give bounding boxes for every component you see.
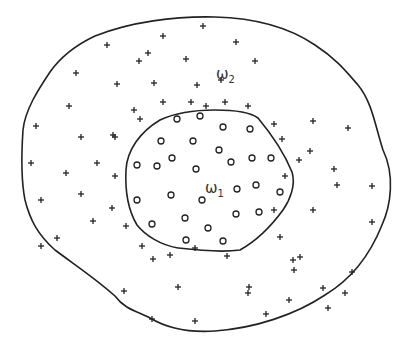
plus-marker [222,99,228,105]
plus-marker [245,103,251,109]
plus-marker [369,219,375,225]
plus-marker [342,290,348,296]
plus-marker [38,197,44,203]
circle-marker [169,155,175,161]
circle-marker [149,221,155,227]
plus-marker [54,235,60,241]
circle-marker [253,182,259,188]
plus-marker [310,118,316,124]
plus-marker [200,23,206,29]
plus-marker [38,243,44,249]
plus-marker [277,234,283,240]
circle-marker [249,155,255,161]
plus-marker [160,99,166,105]
omega2-symbol: ω [216,65,229,83]
plus-marker [297,254,303,260]
circle-marker [134,162,140,168]
circle-marker [268,155,274,161]
plus-marker [136,58,142,64]
circle-marker [154,163,160,169]
omega2-plus-markers [28,23,375,324]
plus-marker [345,125,351,131]
plus-marker [194,82,200,88]
plus-marker [325,305,331,311]
nested-regions-diagram: ω1 ω2 [0,0,412,355]
plus-marker [33,123,39,129]
circle-marker [247,126,253,132]
plus-marker [334,182,340,188]
omega1-symbol: ω [205,179,218,197]
plus-marker [151,80,157,86]
plus-marker [112,173,118,179]
outer-region-boundary [22,17,391,331]
plus-marker [271,207,277,213]
plus-marker [90,218,96,224]
circle-marker [197,113,203,119]
plus-marker [175,284,181,290]
plus-marker [331,166,337,172]
plus-marker [183,56,189,62]
circle-marker [228,159,234,165]
plus-marker [310,207,316,213]
plus-marker [203,103,209,109]
plus-marker [131,107,137,113]
plus-marker [28,160,34,166]
plus-marker [192,318,198,324]
circle-marker [190,138,196,144]
circle-marker [205,225,211,231]
omega1-label: ω1 [205,179,224,199]
circle-marker [233,211,239,217]
plus-marker [246,284,252,290]
plus-marker [369,183,375,189]
omega2-label: ω2 [216,65,235,85]
plus-marker [167,252,173,258]
plus-marker [137,116,143,122]
plus-marker [188,99,194,105]
circle-marker [199,197,205,203]
circle-marker [234,186,240,192]
plus-marker [279,136,285,142]
plus-marker [63,170,69,176]
plus-marker [271,121,277,127]
plus-marker [109,205,115,211]
plus-marker [296,157,302,163]
plus-marker [123,223,129,229]
plus-marker [233,39,239,45]
plus-marker [94,160,100,166]
circle-marker [193,166,199,172]
plus-marker [160,33,166,39]
plus-marker [139,243,145,249]
plus-marker [263,311,269,317]
plus-marker [245,290,251,296]
circle-marker [216,147,222,153]
plus-marker [307,148,313,154]
plus-marker [290,257,296,263]
circle-marker [182,215,188,221]
circle-marker [220,124,226,130]
plus-marker [78,134,84,140]
plus-marker [252,58,258,64]
plus-marker [150,256,156,262]
plus-marker [282,173,288,179]
circle-marker [183,237,189,243]
circle-marker [168,192,174,198]
plus-marker [145,50,151,56]
plus-marker [320,285,326,291]
plus-marker [114,81,120,87]
plus-marker [104,42,110,48]
plus-marker [121,288,127,294]
plus-marker [224,253,230,259]
plus-marker [66,103,72,109]
plus-marker [291,267,297,273]
circle-marker [158,138,164,144]
circle-marker [277,189,283,195]
circle-marker [174,116,180,122]
omega1-subscript: 1 [218,188,224,199]
plus-marker [78,191,84,197]
circle-marker [256,209,262,215]
plus-marker [286,297,292,303]
circle-marker [220,238,226,244]
plus-marker [73,70,79,76]
circle-marker [134,197,140,203]
omega2-subscript: 2 [229,74,235,85]
